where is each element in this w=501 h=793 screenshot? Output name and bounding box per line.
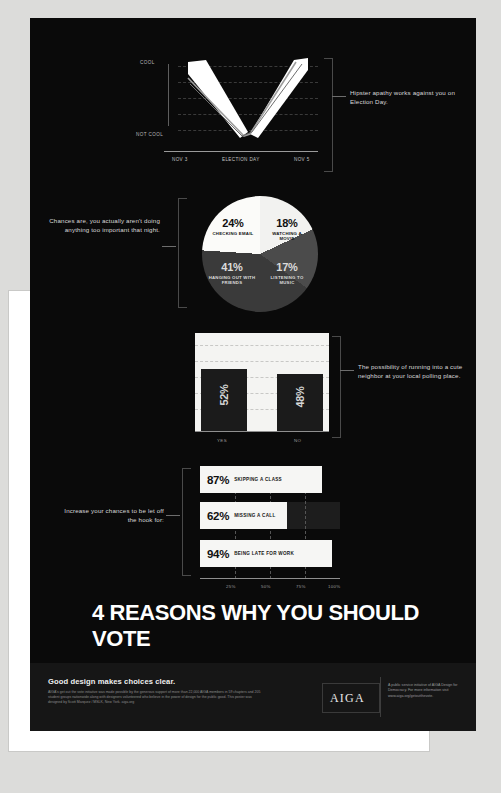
page-title: 4 REASONS WHY YOU SHOULD VOTE [92,600,476,652]
vertical-bar-chart: 52% 48% YES NO [195,333,329,445]
hbar-row-skipping-a-class: 87% SKIPPING A CLASS [200,466,322,493]
footer-title: Good design makes choices clear. [48,677,175,686]
pie-caption: CHECKING EMAIL [210,231,256,236]
vbar-chart-leader [340,370,354,371]
pie-caption: LISTENING TO MUSIC [264,275,310,286]
hbar-pct: 94% [207,548,229,560]
pie-slices [202,196,318,312]
vbar-tick-no: NO [294,438,301,443]
gridline [195,361,329,362]
line-chart-annotation: Hipster apathy works against you on Elec… [350,88,462,106]
line-y-axis [168,64,169,126]
line-chart-bracket [324,58,333,172]
infographic-poster: COOL NOT COOL NOV 3 ELECTION DAY NOV 5 H… [30,18,476,731]
hbar-x-axis [200,578,340,579]
footer-body-text: AIGA's get out the vote initiative was m… [48,690,263,706]
line-xtick-1: ELECTION DAY [222,157,260,162]
hbar-chart-annotation: Increase your chances to be let off the … [56,506,164,524]
line-axis-top-label: COOL [140,60,155,65]
line-x-axis [164,151,318,152]
aiga-logo: AIGA [330,691,365,706]
vbar-x-axis [195,431,329,432]
hbar-row-missing-a-call: 62% MISSING A CALL [200,502,287,529]
pie-chart-leader [162,246,176,247]
hbar-pct: 62% [207,510,229,522]
footer: Good design makes choices clear. AIGA's … [30,663,476,731]
vbar-tick-yes: YES [217,438,227,443]
hbar-tick-2: 75% [296,584,306,589]
pie-pct: 41% [208,262,256,273]
vbar-yes-value: 52% [218,374,230,416]
pie-label-listening-to-music: 17% LISTENING TO MUSIC [264,262,310,286]
pie-chart: 24% CHECKING EMAIL 18% WATCHING A MOVIE … [202,196,318,312]
gridline [195,345,329,346]
line-xtick-0: NOV 3 [172,157,188,162]
pie-label-watching-a-movie: 18% WATCHING A MOVIE [264,218,310,242]
hbar-caption: SKIPPING A CLASS [234,477,282,482]
footer-divider [380,677,381,717]
pie-caption: WATCHING A MOVIE [264,231,310,242]
pie-caption: HANGING OUT WITH FRIENDS [208,275,256,286]
footer-right-text: A public service initiative of AIGA Desi… [388,683,466,699]
line-chart-leader [332,96,346,97]
hbar-tick-3: 100% [328,584,340,589]
pie-pct: 18% [264,218,310,229]
vbar-plot-area: 52% 48% [195,333,329,431]
line-axis-bottom-label: NOT COOL [136,132,163,137]
hbar-caption: BEING LATE FOR WORK [234,551,294,556]
vbar-chart-annotation: The possibility of running into a cute n… [358,362,468,380]
pie-pct: 24% [210,218,256,229]
line-chart: COOL NOT COOL NOV 3 ELECTION DAY NOV 5 [178,56,318,166]
hbar-tick-1: 50% [261,584,271,589]
vbar-no-value: 48% [294,376,306,418]
hbar-chart-bracket [182,468,191,576]
pie-chart-bracket [178,198,187,308]
line-xtick-2: NOV 5 [294,157,310,162]
pie-label-checking-email: 24% CHECKING EMAIL [210,218,256,236]
hbar-pct: 87% [207,474,229,486]
hbar-caption: MISSING A CALL [234,513,275,518]
hbar-row-being-late-for-work: 94% BEING LATE FOR WORK [200,540,332,567]
hbar-chart-leader [166,515,180,516]
horizontal-bar-chart: 87% SKIPPING A CLASS 62% MISSING A CALL … [200,466,340,591]
line-chart-series [178,56,318,140]
hbar-tick-0: 25% [226,584,236,589]
pie-pct: 17% [264,262,310,273]
vbar-chart-bracket [332,336,341,438]
pie-label-hanging-out-with-friends: 41% HANGING OUT WITH FRIENDS [208,262,256,286]
pie-chart-annotation: Chances are, you actually aren't doing a… [48,216,160,234]
